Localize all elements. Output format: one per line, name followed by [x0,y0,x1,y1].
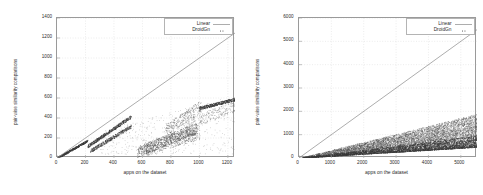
y-tick-label: 5000 [266,37,294,42]
y-tick-label: 1000 [266,131,294,136]
x-tick-label: 600 [126,160,156,165]
x-tick-label: 200 [69,160,99,165]
legend-entry-linear: Linear [407,21,452,26]
figure-container: pair-wise similarity comparisons apps on… [0,0,483,195]
y-tick-label: 2000 [266,107,294,112]
y-tick-label: 6000 [266,14,294,19]
plot-canvas-right [299,18,477,158]
x-tick-label: 400 [98,160,128,165]
x-axis-title-right: apps on the dataset [298,170,476,175]
y-tick-label: 200 [24,134,52,139]
y-tick-label: 800 [24,74,52,79]
y-tick-label: 3000 [266,84,294,89]
legend-entry-droidgn: DroidGn [165,27,210,32]
x-tick-label: 5000 [444,160,474,165]
x-tick-label: 1000 [183,160,213,165]
x-tick-label: 800 [155,160,185,165]
y-axis-title-left: pair-wise similarity comparisons [13,59,18,125]
chart-panel-right: pair-wise similarity comparisons apps on… [242,0,483,195]
x-tick-label: 0 [41,160,71,165]
y-tick-label: 400 [24,114,52,119]
legend-entry-linear: Linear [165,21,210,26]
x-tick-label: 4000 [412,160,442,165]
legend-left: LinearDroidGn [164,18,233,35]
x-tick-label: 1000 [315,160,345,165]
x-tick-label: 3000 [380,160,410,165]
plot-canvas-left [57,18,235,158]
x-tick-label: 2000 [347,160,377,165]
y-tick-label: 0 [24,154,52,159]
plot-area-left [56,17,234,157]
x-tick-label: 1200 [212,160,242,165]
y-tick-label: 1400 [24,14,52,19]
legend-entry-droidgn: DroidGn [407,27,452,32]
chart-panel-left: pair-wise similarity comparisons apps on… [0,0,242,195]
legend-right: LinearDroidGn [406,18,475,35]
y-axis-title-right: pair-wise similarity comparisons [255,59,260,125]
x-axis-title-left: apps on the dataset [56,170,234,175]
plot-area-right [298,17,476,157]
y-tick-label: 600 [24,94,52,99]
y-tick-label: 0 [266,154,294,159]
x-tick-label: 0 [283,160,313,165]
y-tick-label: 1200 [24,34,52,39]
y-tick-label: 4000 [266,61,294,66]
y-tick-label: 1000 [24,54,52,59]
